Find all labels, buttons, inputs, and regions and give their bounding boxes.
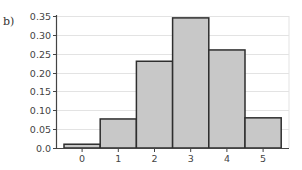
y-axis: 0.00.050.100.150.200.250.300.35 bbox=[30, 11, 57, 154]
x-tick-label: 4 bbox=[224, 153, 230, 164]
bar-0 bbox=[64, 144, 100, 148]
y-tick-label: 0.20 bbox=[30, 68, 51, 79]
histogram-chart: b) 0.00.050.100.150.200.250.300.35 01234… bbox=[0, 0, 302, 170]
y-tick-label: 0.35 bbox=[30, 11, 51, 22]
x-tick-label: 1 bbox=[115, 153, 121, 164]
y-tick-label: 0.0 bbox=[36, 143, 51, 154]
bar-5 bbox=[245, 118, 281, 148]
y-tick-label: 0.30 bbox=[30, 30, 51, 41]
bar-3 bbox=[173, 18, 209, 148]
x-tick-label: 2 bbox=[151, 153, 157, 164]
y-tick-label: 0.05 bbox=[30, 124, 51, 135]
bar-2 bbox=[136, 61, 172, 148]
x-tick-label: 0 bbox=[79, 153, 85, 164]
y-tick-label: 0.25 bbox=[30, 49, 51, 60]
y-tick-label: 0.15 bbox=[30, 86, 51, 97]
x-axis: 012345 bbox=[56, 148, 289, 164]
panel-label: b) bbox=[3, 15, 14, 28]
y-tick-label: 0.10 bbox=[30, 105, 51, 116]
bar-1 bbox=[100, 119, 136, 148]
bars bbox=[64, 18, 281, 148]
x-tick-label: 5 bbox=[260, 153, 266, 164]
bar-4 bbox=[209, 50, 245, 148]
x-tick-label: 3 bbox=[188, 153, 194, 164]
